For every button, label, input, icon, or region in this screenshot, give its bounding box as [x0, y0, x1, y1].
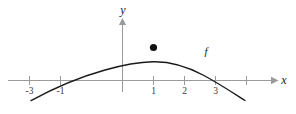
- x-tick-label-1: 1: [151, 86, 156, 96]
- x-axis-label: x: [280, 73, 287, 87]
- graph-figure: -3 -1 1 2 3 x y f: [0, 0, 296, 114]
- y-axis-arrow-icon: [119, 18, 126, 25]
- maximum-point-dot: [150, 44, 157, 51]
- x-tick-label-3: 3: [213, 86, 218, 96]
- x-tick-label-neg1: -1: [57, 86, 65, 96]
- function-curve-label: f: [204, 45, 209, 57]
- x-axis-arrow-icon: [271, 77, 279, 84]
- x-tick-label-2: 2: [182, 86, 187, 96]
- x-tick-label-neg3: -3: [26, 86, 34, 96]
- y-axis-label: y: [119, 3, 126, 17]
- coordinate-plane: -3 -1 1 2 3 x y f: [0, 0, 296, 114]
